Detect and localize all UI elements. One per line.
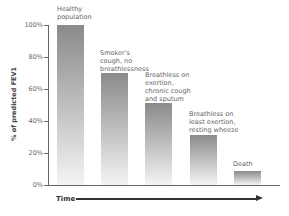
- bar-label: Death: [233, 160, 253, 168]
- arrow-right-icon: [256, 195, 263, 201]
- bar-smokers-cough: [101, 73, 128, 185]
- y-axis: [48, 25, 49, 186]
- y-tick-label: 100%: [24, 21, 43, 29]
- y-tick-label: 20%: [29, 149, 43, 157]
- bar-healthy-population: [57, 25, 84, 185]
- bar-label: Breathless on least exertion, resting wh…: [189, 110, 238, 134]
- x-axis: [48, 185, 280, 186]
- y-tick-label: 0%: [33, 181, 43, 189]
- bar-breathless-on-exertion: [145, 103, 172, 185]
- bar-death: [234, 171, 261, 185]
- bar-label: Healthy population: [57, 5, 92, 21]
- y-tick-label: 40%: [29, 117, 43, 125]
- y-tick: [44, 57, 48, 58]
- x-axis-label: Time: [56, 195, 75, 203]
- y-tick: [44, 185, 48, 186]
- y-tick: [44, 89, 48, 90]
- bar-breathless-least-exertion: [190, 135, 217, 185]
- y-tick: [44, 121, 48, 122]
- y-tick: [44, 25, 48, 26]
- bar-label: Smoker's cough, no breathlessness: [100, 49, 149, 73]
- y-tick-label: 80%: [29, 53, 43, 61]
- y-tick-label: 60%: [29, 85, 43, 93]
- y-tick: [44, 153, 48, 154]
- y-axis-label: % of predicted FEV1: [10, 54, 18, 154]
- bar-label: Breathless on exertion, chronic cough an…: [145, 71, 191, 103]
- time-arrow-line: [76, 198, 256, 200]
